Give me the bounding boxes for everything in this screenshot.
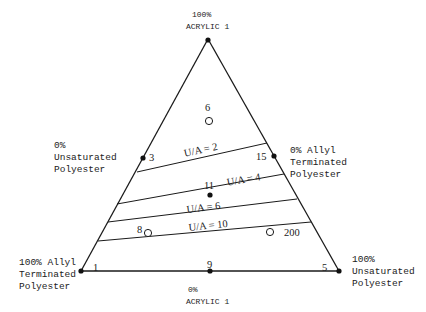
point-top-vertex [205, 37, 210, 42]
top-vertex-name: ACRYLIC 1 [186, 21, 229, 32]
point-label-3: 3 [149, 152, 154, 163]
bottom-left-label-1: 100% Allyl [19, 257, 76, 268]
point-11 [207, 192, 212, 197]
bottom-right-label-3: Polyester [352, 278, 403, 289]
bottom-left-label-2: Terminated [19, 269, 76, 280]
right-edge-label-3: Polyester [290, 169, 341, 180]
point-label-5: 5 [322, 262, 327, 273]
left-edge-label-1: 0% [54, 140, 65, 151]
point-label-15: 15 [256, 151, 267, 162]
point-label-1: 1 [93, 262, 98, 273]
point-label-200: 200 [284, 227, 300, 238]
left-edge-label-3: Polyester [54, 164, 105, 175]
point-15 [271, 153, 276, 158]
bottom-edge-pct: 0% [188, 284, 198, 295]
left-edge-label-2: Unsaturated [54, 152, 117, 163]
bottom-left-label-3: Polyester [19, 281, 70, 292]
point-label-6: 6 [205, 102, 210, 113]
point-5 [336, 268, 341, 273]
point-200 [266, 228, 273, 235]
bottom-right-label-1: 100% [352, 254, 375, 265]
point-label-11: 11 [204, 180, 214, 191]
bottom-right-label-2: Unsaturated [352, 266, 415, 277]
point-6 [205, 117, 212, 124]
point-label-9: 9 [207, 259, 212, 270]
point-3 [140, 155, 145, 160]
right-edge-label-1: 0% Allyl [290, 145, 336, 156]
point-1 [78, 268, 83, 273]
right-edge-label-2: Terminated [290, 157, 347, 168]
point-label-8: 8 [137, 224, 142, 235]
point-8 [144, 229, 151, 236]
bottom-edge-name: ACRYLIC 1 [186, 296, 229, 307]
top-vertex-pct: 100% [192, 9, 211, 20]
